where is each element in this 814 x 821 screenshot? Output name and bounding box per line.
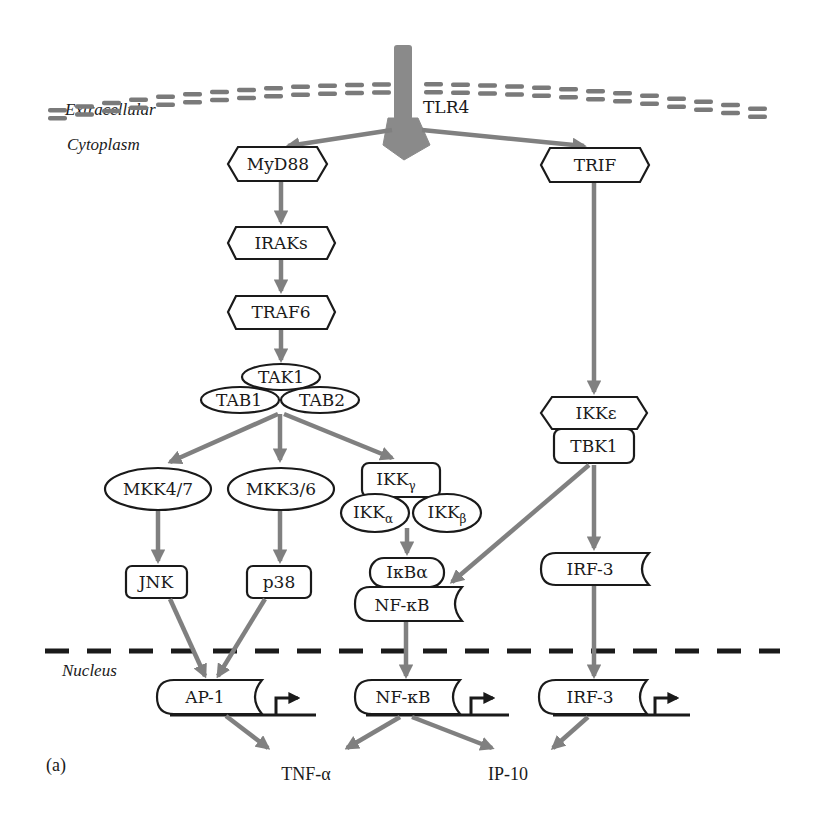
svg-text:MyD88: MyD88 bbox=[247, 154, 309, 174]
tak1-label: TAK1 bbox=[258, 367, 304, 387]
svg-text:TRIF: TRIF bbox=[574, 155, 617, 175]
panel-label: (a) bbox=[46, 755, 66, 776]
output-ip10: IP-10 bbox=[488, 764, 528, 784]
ikke-label: IKKε bbox=[576, 403, 617, 423]
tab2-label: TAB2 bbox=[299, 390, 345, 410]
nucleus-label: Nucleus bbox=[61, 661, 117, 680]
svg-text:AP-1: AP-1 bbox=[184, 687, 224, 707]
node-irf3-nuclear: IRF-3 bbox=[539, 680, 690, 715]
svg-text:NF-κB: NF-κB bbox=[376, 687, 431, 707]
arrow-irf3-ip10 bbox=[553, 717, 588, 748]
nfkb-cyto-label: NF-κB bbox=[375, 595, 430, 615]
tbk1-label: TBK1 bbox=[570, 436, 617, 456]
node-nfkb-nuclear: NF-κB bbox=[355, 680, 509, 715]
svg-text:JNK: JNK bbox=[137, 572, 174, 592]
node-mkk36: MKK3/6 bbox=[228, 468, 334, 510]
arrow-tak1-ikk bbox=[284, 414, 392, 458]
node-ikba-nfkb: IκBα NF-κB bbox=[355, 558, 462, 621]
node-ikke-tbk1: IKKε TBK1 bbox=[541, 397, 647, 463]
svg-text:p38: p38 bbox=[263, 572, 296, 592]
arrow-tak1-mkk47 bbox=[170, 414, 278, 462]
arrow-nfkb-ip10 bbox=[412, 717, 492, 748]
node-jnk: JNK bbox=[126, 566, 187, 598]
ikba-label: IκBα bbox=[386, 562, 428, 582]
output-tnfa: TNF-α bbox=[281, 764, 331, 784]
svg-text:MKK4/7: MKK4/7 bbox=[123, 479, 193, 499]
tab1-label: TAB1 bbox=[216, 390, 262, 410]
node-irf3-cyto: IRF-3 bbox=[541, 553, 649, 585]
node-p38: p38 bbox=[247, 566, 311, 598]
arrow-nfkb-tnfa bbox=[347, 717, 400, 748]
node-trif: TRIF bbox=[541, 148, 649, 182]
tlr4-signaling-diagram: Extracellular Cytoplasm Nucleus TLR4 MyD… bbox=[0, 0, 814, 821]
node-traf6: TRAF6 bbox=[228, 296, 335, 329]
arrow-tlr4-myd88 bbox=[288, 130, 392, 146]
node-ikk-complex: IKKγ IKKα IKKβ bbox=[341, 463, 481, 532]
tlr4-label: TLR4 bbox=[423, 97, 469, 117]
node-mkk47: MKK4/7 bbox=[105, 468, 211, 510]
arrow-tlr4-trif bbox=[422, 130, 584, 146]
svg-text:IRF-3: IRF-3 bbox=[566, 559, 613, 579]
node-iraks: IRAKs bbox=[228, 227, 335, 259]
svg-text:IRF-3: IRF-3 bbox=[566, 687, 613, 707]
node-myd88: MyD88 bbox=[228, 147, 327, 181]
svg-text:TRAF6: TRAF6 bbox=[251, 302, 310, 322]
cytoplasm-label: Cytoplasm bbox=[67, 135, 140, 154]
node-tak1-complex: TAK1 TAB1 TAB2 bbox=[201, 364, 359, 413]
arrow-ap1-tnfa bbox=[226, 716, 268, 748]
arrow-jnk-ap1 bbox=[170, 599, 205, 676]
svg-text:IRAKs: IRAKs bbox=[254, 233, 307, 253]
arrow-p38-ap1 bbox=[218, 599, 265, 676]
svg-text:MKK3/6: MKK3/6 bbox=[246, 479, 316, 499]
node-ap1-nuclear: AP-1 bbox=[157, 680, 316, 715]
